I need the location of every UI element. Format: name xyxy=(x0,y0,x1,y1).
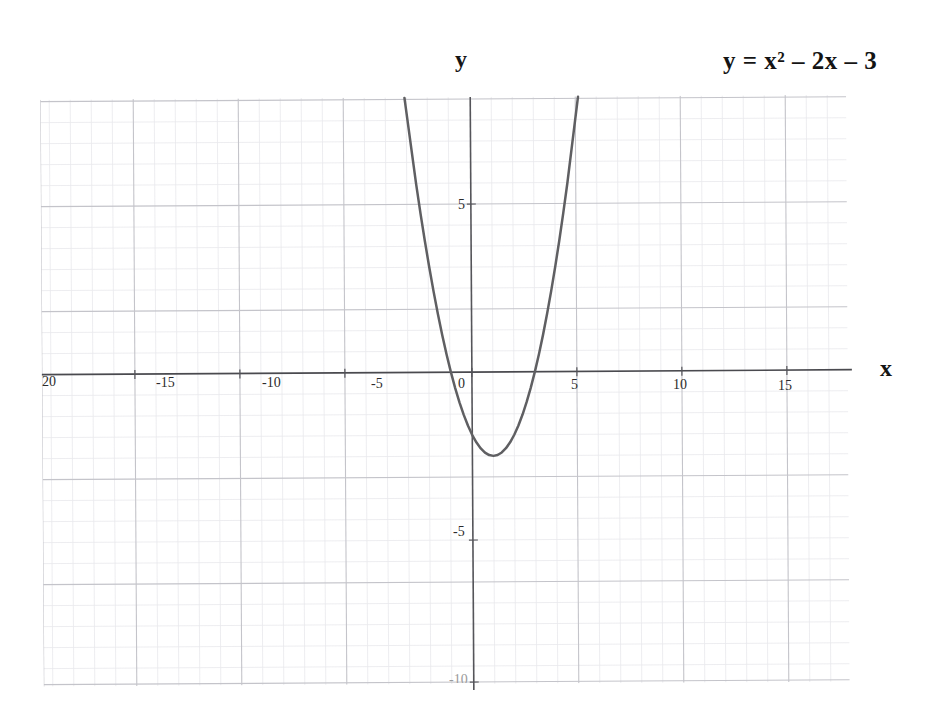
x-axis-label: x xyxy=(880,355,892,382)
y-tick-label: -10 xyxy=(449,672,468,683)
y-tick-label: -5 xyxy=(453,524,465,540)
x-tick-label: 20 xyxy=(42,374,56,390)
graph-figure: 20 -15 -10 -5 0 5 10 15 5 -5 -10 y x y =… xyxy=(0,0,949,720)
coordinate-plane-svg xyxy=(0,0,949,720)
x-tick-label: -10 xyxy=(262,375,281,391)
y-tick-label: 5 xyxy=(458,197,465,213)
plot-area xyxy=(0,0,949,720)
x-tick-label: -15 xyxy=(156,375,175,391)
x-tick-label: 15 xyxy=(778,378,792,394)
x-tick-label: -5 xyxy=(371,376,383,392)
equation-text: y = x² – 2x – 3 xyxy=(723,47,877,74)
equation-label: y = x² – 2x – 3 xyxy=(723,47,877,75)
x-tick-label: 5 xyxy=(571,377,578,393)
x-axis-line xyxy=(42,370,852,375)
y-axis-label: y xyxy=(455,46,468,73)
y-axis-line xyxy=(470,97,474,690)
x-tick-label: 0 xyxy=(458,376,465,392)
x-tick-label: 10 xyxy=(673,377,687,393)
